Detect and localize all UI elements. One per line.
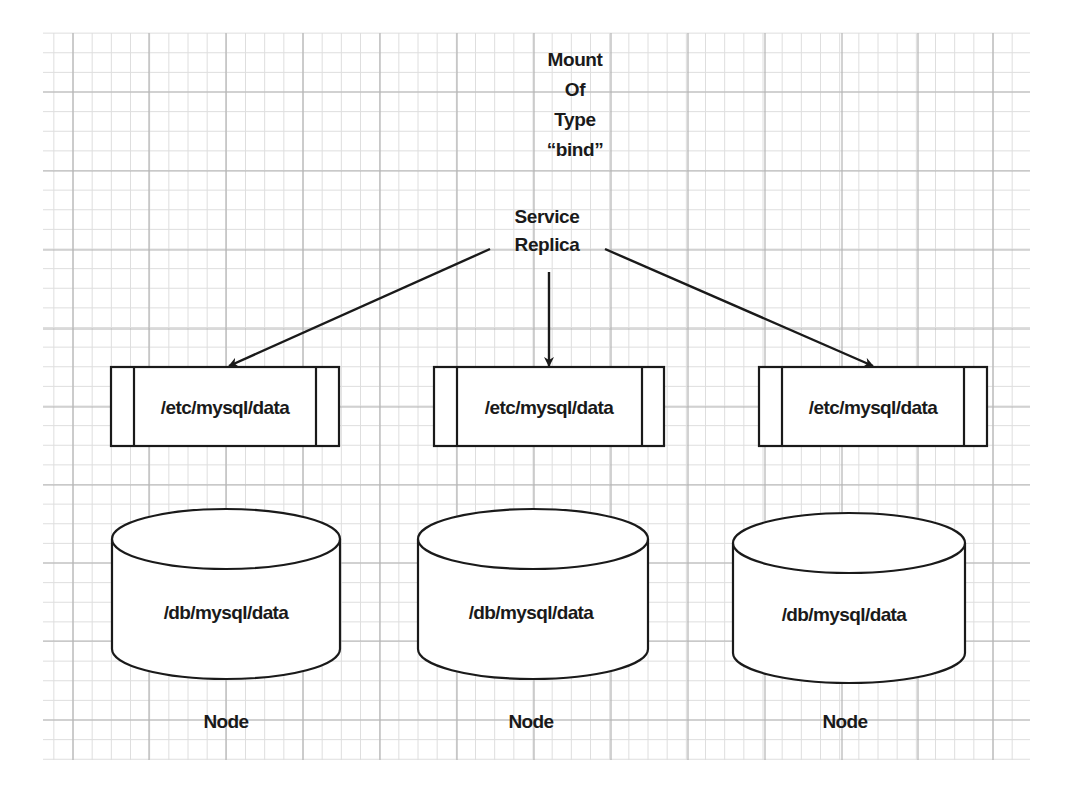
node-label: Node	[508, 711, 553, 732]
service-label-line-2: Replica	[515, 234, 581, 255]
mount-path-label: /etc/mysql/data	[485, 397, 614, 418]
title-line-4: “bind”	[547, 139, 604, 160]
mount-path-label: /etc/mysql/data	[161, 397, 290, 418]
service-label-line-1: Service	[515, 206, 580, 227]
volume-path-label: /db/mysql/data	[164, 602, 290, 623]
node-label: Node	[203, 711, 248, 732]
diagram-canvas: Mount Of Type “bind” Service Replica /et…	[0, 0, 1069, 791]
title-line-3: Type	[554, 109, 595, 130]
service-replica-node: Service Replica	[515, 206, 581, 255]
node-label: Node	[822, 711, 867, 732]
mount-box-2: /etc/mysql/data	[434, 367, 664, 446]
mount-path-label: /etc/mysql/data	[809, 397, 938, 418]
title-line-2: Of	[565, 79, 586, 100]
volume-path-label: /db/mysql/data	[469, 602, 595, 623]
mount-type-title: Mount Of Type “bind”	[547, 49, 604, 160]
volume-path-label: /db/mysql/data	[782, 604, 908, 625]
title-line-1: Mount	[548, 49, 604, 70]
mount-box-1: /etc/mysql/data	[111, 367, 339, 446]
volume-cylinder-3: /db/mysql/data Node	[733, 513, 965, 732]
mount-box-3: /etc/mysql/data	[759, 367, 987, 446]
